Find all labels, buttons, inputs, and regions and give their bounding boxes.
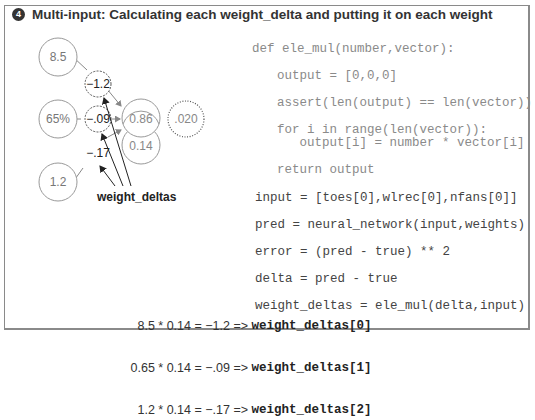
error-value: .020 xyxy=(174,112,198,126)
equation-target-0: weight_deltas[0] xyxy=(251,319,371,333)
input-value-1: 65% xyxy=(46,112,70,126)
code-line-assert: assert(len(output) == len(vector)) xyxy=(277,96,532,110)
weight-deltas-label: weight_deltas xyxy=(97,190,176,204)
input-value-2: 1.2 xyxy=(50,175,67,189)
equation-expr-2: 1.2 * 0.14 = −.17 => xyxy=(118,403,248,417)
code-line-error: error = (pred - true) ** 2 xyxy=(255,245,450,259)
equation-block: 8.5 * 0.14 = −1.2 => weight_deltas[0] 0.… xyxy=(118,291,418,420)
equation-target-2: weight_deltas[2] xyxy=(251,403,371,417)
code-line-for: for i in range(len(vector)): xyxy=(277,123,487,137)
code-line-assign: output[i] = number * vector[i] xyxy=(277,136,525,150)
weight-delta-value-2: −.17 xyxy=(86,146,110,160)
code-line-delta: delta = pred - true xyxy=(255,272,398,286)
equation-target-1: weight_deltas[1] xyxy=(251,361,371,375)
equation-expr-0: 8.5 * 0.14 = −1.2 => xyxy=(118,319,248,333)
input-value-0: 8.5 xyxy=(50,50,67,64)
code-line-pred: pred = neural_network(input,weights) xyxy=(255,218,525,232)
weight-delta-value-0: −1.2 xyxy=(86,77,110,91)
code-line-output-init: output = [0,0,0] xyxy=(277,69,397,83)
code-line-input: input = [toes[0],wlrec[0],nfans[0]] xyxy=(255,191,518,205)
equation-expr-1: 0.65 * 0.14 = −.09 => xyxy=(118,361,248,375)
code-line-return: return output xyxy=(277,163,375,177)
code-line-def: def ele_mul(number,vector): xyxy=(252,42,455,56)
weight-delta-value-1: −.09 xyxy=(86,112,110,126)
delta-value: 0.14 xyxy=(129,139,153,153)
prediction-value: 0.86 xyxy=(129,112,153,126)
